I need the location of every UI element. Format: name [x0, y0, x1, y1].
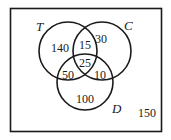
- region-c-d: 10: [94, 68, 106, 82]
- set-label-c: C: [124, 18, 133, 33]
- region-c-only: 30: [95, 32, 107, 46]
- venn-diagram: T C D 140 30 100 15 50 10 25 150: [0, 0, 171, 140]
- region-t-d: 50: [62, 68, 74, 82]
- set-label-d: D: [111, 101, 122, 116]
- region-outside: 150: [138, 106, 156, 120]
- set-label-t: T: [36, 19, 44, 34]
- region-d-only: 100: [76, 92, 94, 106]
- region-t-c: 15: [79, 38, 91, 52]
- region-t-c-d: 25: [79, 56, 91, 70]
- region-t-only: 140: [51, 41, 69, 55]
